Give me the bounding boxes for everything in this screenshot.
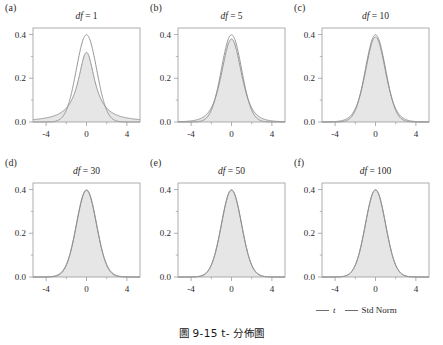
t-distribution-area xyxy=(178,39,285,122)
legend-line-icon xyxy=(345,310,358,311)
x-tick-label: -4 xyxy=(331,284,339,294)
x-tick-label: 4 xyxy=(125,129,130,139)
x-tick-label: 0 xyxy=(373,129,378,139)
x-tick-label: -4 xyxy=(331,129,339,139)
x-tick-label: -4 xyxy=(187,284,195,294)
t-distribution-area xyxy=(322,190,429,277)
panel-title-f: df = 100 xyxy=(322,166,429,176)
panel-label-a: (a) xyxy=(5,2,16,13)
plot-f: -4040.00.20.4 xyxy=(292,179,435,299)
panel-title-e: df = 50 xyxy=(178,166,285,176)
x-tick-label: 0 xyxy=(84,129,89,139)
x-tick-label: 4 xyxy=(125,284,130,294)
y-tick-label: 0.0 xyxy=(304,117,316,127)
y-tick-label: 0.2 xyxy=(15,73,26,83)
y-tick-label: 0.2 xyxy=(304,73,315,83)
y-tick-label: 0.0 xyxy=(15,272,27,282)
y-tick-label: 0.4 xyxy=(160,185,172,195)
panel-label-b: (b) xyxy=(150,2,162,13)
x-tick-label: -4 xyxy=(187,129,195,139)
panel-title-c: df = 10 xyxy=(322,11,429,21)
x-tick-label: 4 xyxy=(270,129,275,139)
legend-entry-t: t xyxy=(316,305,336,315)
t-distribution-area xyxy=(322,37,429,122)
y-tick-label: 0.4 xyxy=(304,185,316,195)
x-tick-label: 0 xyxy=(84,284,89,294)
panel-title-a: df = 1 xyxy=(33,11,140,21)
x-tick-label: 0 xyxy=(229,129,234,139)
panel-title-b: df = 5 xyxy=(178,11,285,21)
panel-label-c: (c) xyxy=(294,2,305,13)
y-tick-label: 0.2 xyxy=(15,228,26,238)
legend-entry-std-norm: Std Norm xyxy=(345,305,397,315)
figure-caption: 圖 9-15 t- 分佈圖 xyxy=(0,325,443,340)
plot-c: -4040.00.20.4 xyxy=(292,24,435,144)
y-tick-label: 0.4 xyxy=(15,185,27,195)
y-tick-label: 0.0 xyxy=(160,117,172,127)
panel-label-f: (f) xyxy=(294,157,304,168)
t-distribution-area xyxy=(33,52,140,122)
x-tick-label: 4 xyxy=(414,129,419,139)
y-tick-label: 0.2 xyxy=(160,73,171,83)
y-tick-label: 0.4 xyxy=(160,30,172,40)
panel-title-d: df = 30 xyxy=(33,166,140,176)
t-distribution-area xyxy=(33,191,140,277)
x-tick-label: 0 xyxy=(373,284,378,294)
plot-b: -4040.00.20.4 xyxy=(148,24,291,144)
y-tick-label: 0.0 xyxy=(160,272,172,282)
y-tick-label: 0.4 xyxy=(304,30,316,40)
y-tick-label: 0.2 xyxy=(304,228,315,238)
y-tick-label: 0.4 xyxy=(15,30,27,40)
panel-label-d: (d) xyxy=(5,157,17,168)
y-tick-label: 0.0 xyxy=(15,117,27,127)
legend-label: t xyxy=(333,305,336,315)
x-tick-label: -4 xyxy=(42,129,50,139)
y-tick-label: 0.2 xyxy=(160,228,171,238)
x-tick-label: 4 xyxy=(270,284,275,294)
legend: tStd Norm xyxy=(316,305,397,315)
plot-e: -4040.00.20.4 xyxy=(148,179,291,299)
panel-label-e: (e) xyxy=(150,157,161,168)
y-tick-label: 0.0 xyxy=(304,272,316,282)
x-tick-label: 4 xyxy=(414,284,419,294)
legend-label: Std Norm xyxy=(362,305,397,315)
plot-d: -4040.00.20.4 xyxy=(3,179,146,299)
plot-a: -4040.00.20.4 xyxy=(3,24,146,144)
t-distribution-area xyxy=(178,190,285,277)
t-distribution-figure: (a)df = 1-4040.00.20.4(b)df = 5-4040.00.… xyxy=(0,0,443,345)
legend-line-icon xyxy=(316,310,329,311)
x-tick-label: -4 xyxy=(42,284,50,294)
x-tick-label: 0 xyxy=(229,284,234,294)
